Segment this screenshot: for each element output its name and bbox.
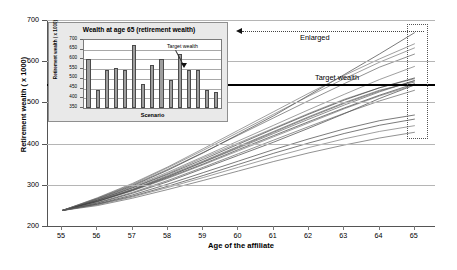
inset-y-tick-700 (80, 39, 83, 40)
enlarged-label: Enlarged (300, 33, 330, 42)
target-wealth-label: Target wealth (315, 73, 359, 82)
scenario-line (62, 119, 415, 210)
inset-bar (150, 65, 154, 108)
inset-y-tick-400 (80, 97, 83, 98)
gridline-y-700 (47, 20, 435, 21)
inset-target-arrow-head-icon (181, 63, 187, 68)
inset-target-wealth-label: Target wealth (167, 43, 198, 49)
x-tick-label-62: 62 (296, 231, 320, 240)
x-tick-label-64: 64 (367, 231, 391, 240)
inset-bar (86, 59, 90, 108)
inset-y-tick-label-500: 500 (55, 75, 77, 80)
inset-plot-area (83, 39, 222, 109)
inset-y-tick-550 (80, 68, 83, 69)
inset-y-tick-label-600: 600 (55, 56, 77, 61)
inset-bar (205, 90, 209, 108)
inset-y-tick-600 (80, 58, 83, 59)
inset-bar (169, 80, 173, 108)
inset-bar (214, 92, 218, 108)
main-x-axis-line (47, 226, 435, 227)
x-tick-label-63: 63 (331, 231, 355, 240)
y-tick-label-700: 700 (0, 16, 39, 23)
x-tick-55 (61, 226, 62, 230)
figure-canvas: 200300400500600700 555657585960616263646… (0, 0, 457, 270)
x-tick-65 (414, 226, 415, 230)
inset-y-tick-350 (80, 107, 83, 108)
inset-y-tick-650 (80, 49, 83, 50)
y-tick-300 (42, 185, 47, 186)
inset-y-tick-500 (80, 78, 83, 79)
enlarged-arrow-head-icon (236, 28, 242, 34)
y-tick-700 (42, 20, 47, 21)
enlarged-arrow-line (242, 31, 424, 32)
x-tick-59 (202, 226, 203, 230)
gridline-y-300 (47, 185, 435, 186)
y-tick-600 (42, 61, 47, 62)
y-axis-title: Retirement wealth ( x 1000) (19, 30, 28, 180)
x-tick-label-59: 59 (190, 231, 214, 240)
x-tick-label-65: 65 (402, 231, 426, 240)
inset-bar (132, 45, 136, 108)
inset-bar (141, 84, 145, 108)
inset-title: Wealth at age 65 (retirement wealth) (49, 26, 229, 33)
inset-gridline-600 (84, 59, 221, 60)
x-tick-62 (308, 226, 309, 230)
inset-bar (114, 68, 118, 108)
inset-y-tick-label-450: 450 (55, 85, 77, 90)
inset-gridline-650 (84, 50, 221, 51)
x-tick-label-61: 61 (261, 231, 285, 240)
inset-y-tick-450 (80, 88, 83, 89)
y-tick-400 (42, 144, 47, 145)
inset-bar (187, 70, 191, 108)
x-tick-64 (379, 226, 380, 230)
x-tick-label-55: 55 (49, 231, 73, 240)
inset-y-tick-label-650: 650 (55, 46, 77, 51)
inset-bar (123, 70, 127, 108)
x-tick-label-60: 60 (225, 231, 249, 240)
gridline-y-400 (47, 144, 435, 145)
y-tick-label-200: 200 (0, 222, 39, 229)
x-tick-57 (132, 226, 133, 230)
age-65-highlight-box (407, 24, 427, 139)
inset-bar-chart: Wealth at age 65 (retirement wealth) Ret… (48, 22, 228, 122)
inset-x-axis-title: Scenario (83, 112, 222, 118)
y-tick-label-300: 300 (0, 181, 39, 188)
y-tick-500 (42, 102, 47, 103)
inset-bar (105, 70, 109, 108)
x-tick-61 (273, 226, 274, 230)
inset-y-tick-label-550: 550 (55, 66, 77, 71)
inset-y-tick-label-400: 400 (55, 95, 77, 100)
inset-y-tick-label-700: 700 (55, 37, 77, 42)
x-tick-label-57: 57 (120, 231, 144, 240)
inset-bar (159, 59, 163, 108)
x-axis-title: Age of the affiliate (47, 241, 435, 250)
x-tick-63 (343, 226, 344, 230)
inset-y-tick-label-350: 350 (55, 105, 77, 110)
inset-bar (196, 70, 200, 108)
x-tick-60 (237, 226, 238, 230)
x-tick-label-56: 56 (84, 231, 108, 240)
x-tick-56 (96, 226, 97, 230)
inset-bar (96, 90, 100, 108)
x-tick-58 (167, 226, 168, 230)
x-tick-label-58: 58 (155, 231, 179, 240)
